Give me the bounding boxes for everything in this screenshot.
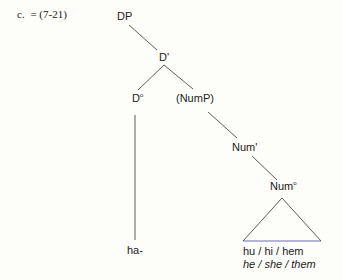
node-num-head-label: Num: [270, 180, 293, 192]
node-d-bar: D': [159, 52, 169, 63]
node-dp: DP: [117, 11, 132, 22]
leaf-ha: ha-: [127, 245, 143, 256]
node-num-head: Numo: [270, 181, 297, 192]
leaf-gloss: he / she / them: [243, 259, 316, 270]
tree-branches: [0, 0, 342, 280]
node-d-head-label: D: [132, 92, 140, 104]
leaf-pronouns: hu / hi / hem: [243, 246, 304, 257]
node-d-head-sup: o: [140, 92, 143, 98]
node-num-head-sup: o: [293, 180, 296, 186]
node-d-head: Do: [132, 93, 143, 104]
node-num-bar: Num': [232, 142, 257, 153]
node-nump: (NumP): [176, 93, 214, 104]
